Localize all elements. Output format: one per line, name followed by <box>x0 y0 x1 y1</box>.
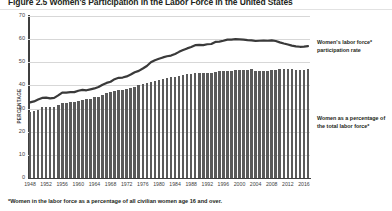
x-tick-label: 1988 <box>185 181 197 187</box>
figure-title: Figure 2.5 Women's Participation in the … <box>8 0 293 7</box>
x-tick-label: 2012 <box>282 181 294 187</box>
x-tick-label: 1956 <box>56 181 68 187</box>
x-tick-label: 2016 <box>298 181 310 187</box>
x-tick-label: 1980 <box>153 181 165 187</box>
y-tick-label: 10 <box>19 152 25 158</box>
x-tick-label: 1948 <box>24 181 36 187</box>
y-tick-label: 60 <box>19 36 25 42</box>
figure-footnote: *Women in the labor force as a percentag… <box>8 198 222 204</box>
x-tick-label: 1960 <box>73 181 85 187</box>
figure-container: Figure 2.5 Women's Participation in the … <box>0 0 392 211</box>
x-tick-label: 1968 <box>105 181 117 187</box>
y-tick-label: 0 <box>22 175 25 181</box>
line-path <box>30 39 308 102</box>
x-tick-label: 1976 <box>137 181 149 187</box>
x-tick-label: 1984 <box>169 181 181 187</box>
x-tick-label: 2000 <box>234 181 246 187</box>
gridline <box>28 178 310 179</box>
x-tick-label: 2008 <box>266 181 278 187</box>
x-tick-label: 1972 <box>121 181 133 187</box>
y-tick-label: 70 <box>19 13 25 19</box>
x-tick-label: 1992 <box>201 181 213 187</box>
x-tick-label: 1964 <box>89 181 101 187</box>
y-tick-label: 50 <box>19 59 25 65</box>
y-tick-label: 30 <box>19 106 25 112</box>
x-tick-label: 1952 <box>40 181 52 187</box>
plot-area: 010203040506070 <box>28 16 310 178</box>
y-tick-label: 40 <box>19 83 25 89</box>
line-series <box>28 16 310 178</box>
annotation-bar-series: Women as a percentage of the total labor… <box>317 114 387 131</box>
y-tick-label: 20 <box>19 129 25 135</box>
x-tick-label: 1996 <box>218 181 230 187</box>
x-axis-ticks: 1948195219561960196419681972197619801984… <box>28 181 311 191</box>
annotation-line-series: Women's labor force* participation rate <box>317 38 387 55</box>
x-tick-label: 2004 <box>250 181 262 187</box>
top-rule <box>0 9 392 10</box>
